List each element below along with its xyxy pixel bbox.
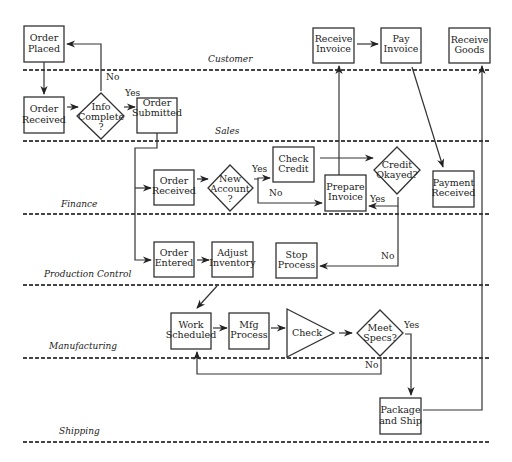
node-mfg-process[interactable]: Mfg Process (229, 313, 269, 349)
svg-text:Process: Process (278, 259, 315, 270)
edge-pay-invoice-to-payment-received (412, 67, 443, 167)
svg-text:Received: Received (432, 187, 476, 198)
edge-meet-specs-yes (405, 334, 411, 395)
node-meet-specs-decision[interactable]: Meet Specs? (357, 310, 403, 356)
svg-text:Process: Process (230, 329, 267, 340)
edge-label-specs-yes: Yes (403, 320, 419, 330)
svg-text:Submitted: Submitted (132, 107, 182, 118)
edge-label-credit-no: No (381, 251, 394, 261)
node-stop-process[interactable]: Stop Process (276, 243, 317, 278)
edge-label-account-yes: Yes (251, 164, 267, 174)
edge-info-complete-no (67, 44, 101, 91)
node-credit-okayed-decision[interactable]: Credit Okayed? (374, 147, 420, 194)
node-order-received-sales[interactable]: Order Received (22, 97, 66, 133)
svg-text:Invoice: Invoice (328, 191, 363, 202)
node-receive-invoice[interactable]: Receive Invoice (313, 28, 354, 63)
nodes: Order Placed Receive Invoice Pay Invoice… (22, 26, 490, 434)
svg-text:Invoice: Invoice (316, 43, 351, 54)
lane-label-finance: Finance (60, 199, 97, 209)
edge-label-info-yes: Yes (124, 88, 140, 98)
node-pay-invoice[interactable]: Pay Invoice (381, 28, 421, 63)
node-new-account-decision[interactable]: New Account ? (208, 165, 253, 211)
node-prepare-invoice[interactable]: Prepare Invoice (325, 175, 366, 211)
edge-label-credit-yes: Yes (369, 194, 385, 204)
edge-adjust-inventory-to-work-scheduled (197, 286, 217, 308)
edge-label-specs-no: No (365, 360, 378, 370)
edge-new-account-yes (254, 178, 270, 179)
svg-text:Entered: Entered (155, 257, 194, 268)
svg-text:Specs?: Specs? (363, 332, 397, 343)
svg-text:Package: Package (380, 404, 420, 415)
node-work-scheduled[interactable]: Work Scheduled (166, 313, 217, 349)
edge-label-info-no: No (106, 72, 119, 82)
node-order-submitted[interactable]: Order Submitted (132, 97, 182, 133)
swimlane-flowchart: Customer Sales Finance Production Contro… (0, 0, 512, 462)
svg-text:Goods: Goods (455, 44, 485, 55)
svg-text:?: ? (227, 193, 232, 204)
svg-text:Scheduled: Scheduled (166, 329, 217, 340)
node-payment-received[interactable]: Payment Received (432, 171, 476, 207)
lane-label-shipping: Shipping (59, 426, 100, 436)
svg-text:Credit: Credit (278, 163, 309, 174)
svg-text:Received: Received (22, 114, 66, 125)
svg-text:Inventory: Inventory (209, 257, 256, 268)
node-order-placed[interactable]: Order Placed (24, 26, 64, 62)
node-adjust-inventory[interactable]: Adjust Inventory (209, 242, 256, 277)
svg-text:Order: Order (30, 103, 59, 114)
lane-label-production-control: Production Control (43, 269, 131, 279)
svg-text:and Ship: and Ship (379, 415, 422, 426)
svg-text:Invoice: Invoice (384, 43, 419, 54)
node-check-credit[interactable]: Check Credit (273, 147, 314, 182)
node-info-complete-decision[interactable]: Info Complete ? (77, 93, 124, 139)
lane-label-customer: Customer (208, 54, 253, 64)
svg-text:Received: Received (152, 185, 196, 196)
lane-label-manufacturing: Manufacturing (48, 341, 117, 351)
lane-label-sales: Sales (215, 126, 240, 136)
node-package-and-ship[interactable]: Package and Ship (379, 398, 422, 434)
edges (44, 44, 482, 410)
svg-text:Order: Order (30, 32, 59, 43)
node-receive-goods[interactable]: Receive Goods (449, 28, 490, 63)
svg-text:Okayed?: Okayed? (376, 169, 417, 180)
svg-text:Check: Check (292, 327, 322, 338)
node-check-triangle[interactable]: Check (287, 309, 334, 357)
svg-text:?: ? (98, 121, 103, 132)
svg-text:Placed: Placed (28, 43, 60, 54)
node-order-entered[interactable]: Order Entered (154, 242, 194, 277)
edge-label-account-no: No (269, 188, 282, 198)
node-order-received-finance[interactable]: Order Received (152, 170, 196, 205)
edge-trunk-to-order-entered (135, 188, 151, 260)
